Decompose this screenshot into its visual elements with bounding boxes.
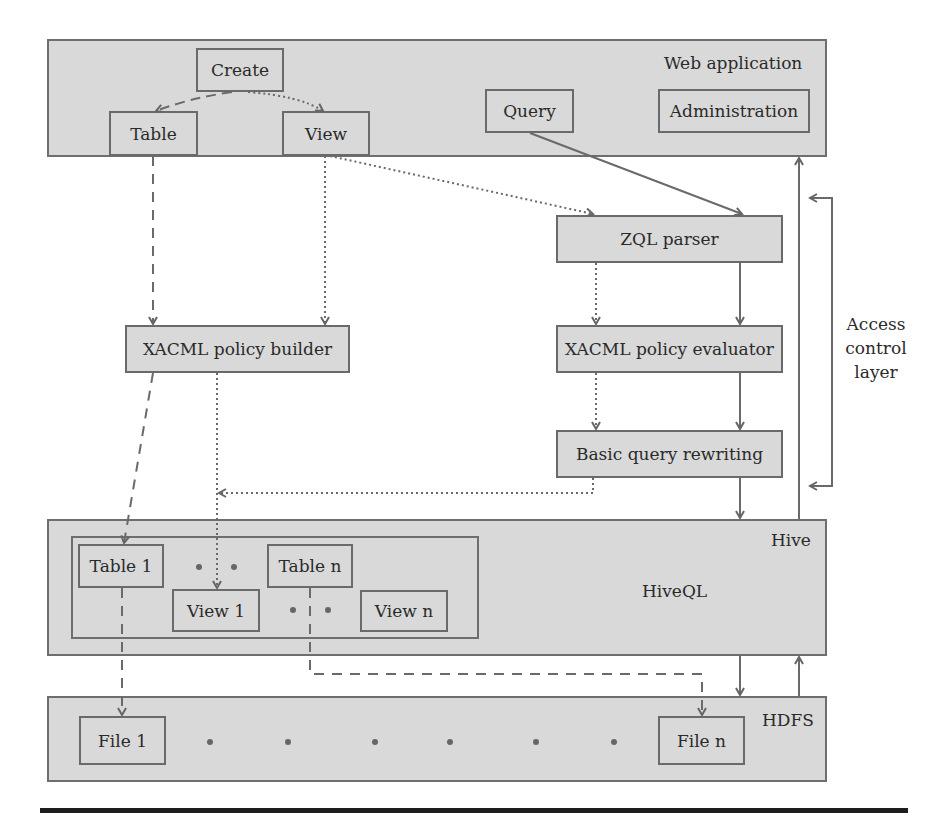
view-n-box: View n [360,590,448,632]
ellipsis-dot [285,739,291,745]
view-box: View [282,111,370,156]
zql-parser-box: ZQL parser [556,215,783,263]
table-box: Table [109,111,198,156]
ellipsis-dot [533,739,539,745]
query-box: Query [485,89,574,133]
ellipsis-dot [611,739,617,745]
ellipsis-dot [290,607,296,613]
hive-label: Hive [771,530,811,550]
bottom-rule [40,808,908,813]
table-1-box: Table 1 [78,544,164,588]
ellipsis-dot [207,739,213,745]
file-n-box: File n [658,716,745,765]
hiveql-label: HiveQL [642,581,707,601]
ellipsis-dot [447,739,453,745]
create-box: Create [196,48,284,92]
administration-box: Administration [658,89,810,133]
table-n-box: Table n [267,544,353,588]
view-1-box: View 1 [172,589,260,632]
web-application-label: Web application [664,53,802,73]
ellipsis-dot [325,607,331,613]
ellipsis-dot [231,564,237,570]
basic-query-rewriting-box: Basic query rewriting [556,430,783,478]
xacml-policy-evaluator-box: XACML policy evaluator [556,325,783,373]
hdfs-label: HDFS [762,710,814,730]
file-1-box: File 1 [79,716,166,765]
xacml-policy-builder-box: XACML policy builder [125,325,350,373]
ellipsis-dot [372,739,378,745]
ellipsis-dot [196,564,202,570]
access-control-layer-label: Access control layer [840,312,912,384]
